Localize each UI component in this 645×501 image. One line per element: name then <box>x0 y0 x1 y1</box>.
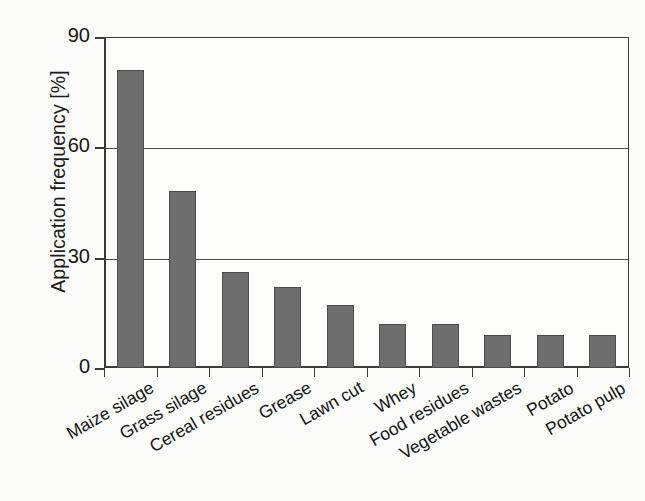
y-tick-label: 30 <box>68 245 90 268</box>
y-tick-mark <box>95 368 104 370</box>
y-tick-label: 60 <box>68 134 90 157</box>
x-tick-mark <box>104 368 105 377</box>
x-tick-mark <box>629 368 630 377</box>
gridline <box>106 148 628 149</box>
y-tick-mark <box>95 37 104 39</box>
y-tick-label: 90 <box>68 24 90 47</box>
x-tick-mark <box>367 368 368 377</box>
y-tick-label: 0 <box>79 355 90 378</box>
x-tick-mark <box>157 368 158 377</box>
x-tick-mark <box>209 368 210 377</box>
x-tick-mark <box>419 368 420 377</box>
y-tick-mark <box>95 147 104 149</box>
y-tick-mark <box>95 258 104 260</box>
x-tick-mark <box>524 368 525 377</box>
gridline <box>106 259 628 260</box>
x-tick-mark <box>472 368 473 377</box>
x-tick-mark <box>577 368 578 377</box>
x-tick-mark <box>262 368 263 377</box>
y-axis-title: Application frequency [%] <box>47 17 70 347</box>
plot-area <box>104 37 629 368</box>
x-tick-mark <box>314 368 315 377</box>
bar-chart-figure: Application frequency [%] 0306090 Maize … <box>0 0 645 501</box>
